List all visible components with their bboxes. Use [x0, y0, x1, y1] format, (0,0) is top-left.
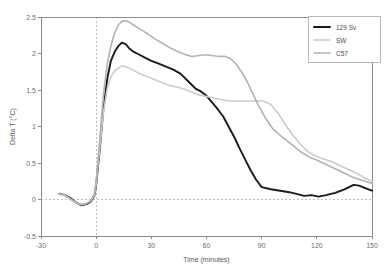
- legend-label-c57: C57: [336, 50, 348, 57]
- x-tick-label-120: 120: [311, 242, 323, 249]
- y-tick-label-1.5: 1.5: [26, 87, 36, 94]
- y-axis-title: Delta T (°C): [9, 108, 17, 145]
- x-tick-label-90: 90: [258, 242, 266, 249]
- x-tick-label--30: -30: [36, 242, 46, 249]
- y-tick-label-2: 2: [32, 50, 36, 57]
- legend: 129 SvSWC57: [308, 16, 380, 62]
- x-tick-label-60: 60: [203, 242, 211, 249]
- y-tick-label--0.5: -0.5: [24, 233, 36, 240]
- x-axis-title: Time (minutes): [183, 256, 229, 264]
- x-axis-label: Time (minutes): [183, 256, 229, 264]
- legend-label-sw: SW: [336, 37, 347, 44]
- legend-label-129-sv: 129 Sv: [336, 24, 357, 31]
- y-tick-label-0.5: 0.5: [26, 160, 36, 167]
- delta-t-line-chart: -300306090120150 -0.500.511.522.5 Time (…: [0, 0, 390, 276]
- chart-figure: -300306090120150 -0.500.511.522.5 Time (…: [0, 0, 390, 276]
- x-tick-label-0: 0: [94, 242, 98, 249]
- y-axis-label: Delta T (°C): [9, 108, 17, 145]
- y-tick-label-1: 1: [32, 123, 36, 130]
- x-tick-label-150: 150: [366, 242, 378, 249]
- y-tick-label-0: 0: [32, 196, 36, 203]
- x-axis-ticks: -300306090120150: [36, 236, 378, 249]
- y-axis-ticks: -0.500.511.522.5: [24, 14, 41, 240]
- x-tick-label-30: 30: [147, 242, 155, 249]
- y-tick-label-2.5: 2.5: [26, 14, 36, 21]
